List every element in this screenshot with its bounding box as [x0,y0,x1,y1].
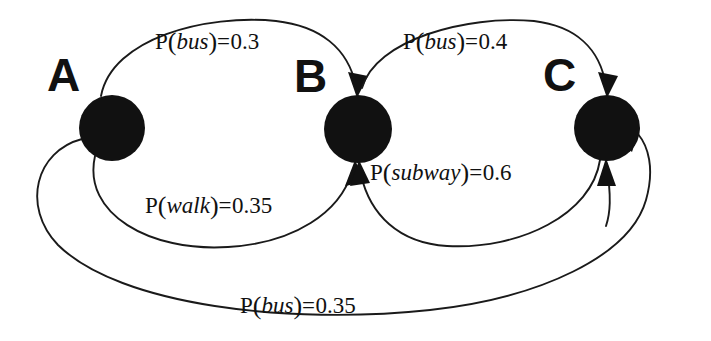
probability-value: 0.3 [231,29,260,54]
event-name: subway [391,160,460,185]
close-paren: ) [208,27,217,56]
probability-symbol: P [145,193,158,218]
node-a-circle[interactable] [79,95,145,161]
probability-symbol: P [240,293,253,318]
edge-label-a-to-b-walk: P(walk)=0.35 [145,192,272,218]
open-paren: ( [383,158,392,187]
equals-sign: = [465,29,478,54]
equals-sign: = [217,29,230,54]
probability-symbol: P [155,29,168,54]
edge-a-to-b-bus-arrowhead [348,72,368,98]
edge-label-c-to-b-subway: P(subway)=0.6 [370,159,511,185]
probability-value: 0.35 [232,193,272,218]
close-paren: ) [210,191,219,220]
edge-label-a-to-c-bus: P(bus)=0.35 [240,292,356,318]
event-name: walk [166,193,209,218]
probability-value: 0.6 [483,160,512,185]
close-paren: ) [460,158,469,187]
event-name: bus [424,29,456,54]
node-b-label: B [294,53,327,99]
close-paren: ) [293,291,302,320]
equals-sign: = [302,293,315,318]
edge-label-b-to-c-bus: P(bus)=0.4 [403,28,507,54]
open-paren: ( [416,27,425,56]
node-b-circle[interactable] [324,95,392,163]
event-name: bus [261,293,293,318]
open-paren: ( [253,291,262,320]
node-a-label: A [47,52,80,98]
edge-a-to-c-bus-path [37,134,650,315]
node-c-label: C [543,52,576,98]
edge-b-to-c-bus-arrowhead [598,72,618,98]
probability-symbol: P [403,29,416,54]
equals-sign: = [219,193,232,218]
node-c-circle[interactable] [574,95,640,161]
open-paren: ( [158,191,167,220]
probability-value: 0.35 [316,293,356,318]
open-paren: ( [168,27,177,56]
transition-diagram: A B C P(bus)=0.3 P(bus)=0.4 P(walk)=0.35… [0,0,711,341]
edge-label-a-to-b-bus: P(bus)=0.3 [155,28,259,54]
probability-value: 0.4 [479,29,508,54]
equals-sign: = [469,160,482,185]
probability-symbol: P [370,160,383,185]
close-paren: ) [456,27,465,56]
diagram-canvas [0,0,711,341]
event-name: bus [176,29,208,54]
